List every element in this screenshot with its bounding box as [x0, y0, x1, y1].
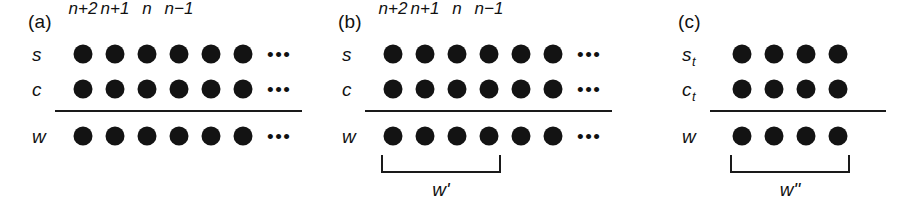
node-dot	[234, 80, 253, 99]
node-dot	[384, 80, 403, 99]
node-dot	[544, 80, 563, 99]
node-dot	[733, 127, 752, 146]
node-dot	[384, 45, 403, 64]
column-header-b-0: n+2	[379, 0, 408, 17]
node-dot	[733, 80, 752, 99]
node-dot	[384, 127, 403, 146]
node-dot	[829, 45, 848, 64]
row-label-b-w: w	[342, 127, 356, 146]
panel-letter-b: (b)	[338, 12, 362, 31]
row-ellipsis: •••	[577, 127, 601, 146]
row-label-a-c: c	[32, 80, 42, 99]
row-label-subscript: t	[692, 89, 696, 104]
node-dot	[74, 127, 93, 146]
node-dot	[416, 80, 435, 99]
node-dot	[512, 127, 531, 146]
column-header-a-3: n−1	[165, 0, 194, 17]
row-label-c-st: st	[682, 45, 695, 64]
row-label-b-s: s	[342, 45, 352, 64]
node-dot	[797, 127, 816, 146]
node-dot	[765, 45, 784, 64]
node-dot	[138, 80, 157, 99]
row-ellipsis: •••	[267, 45, 291, 64]
column-header-b-3: n−1	[475, 0, 504, 17]
node-dot	[480, 80, 499, 99]
column-header-b-2: n	[452, 0, 461, 17]
node-dot	[170, 45, 189, 64]
group-bracket-c	[730, 155, 850, 173]
row-label-c-ct: ct	[682, 80, 695, 99]
row-separator-c	[710, 110, 886, 112]
node-dot	[829, 127, 848, 146]
row-ellipsis: •••	[577, 45, 601, 64]
group-bracket-label-b: w'	[432, 180, 449, 199]
panel-letter-c: (c)	[678, 12, 701, 31]
panel-letter-a: (a)	[28, 12, 52, 31]
row-label-a-w: w	[32, 127, 46, 146]
node-dot	[448, 45, 467, 64]
node-dot	[138, 45, 157, 64]
node-dot	[416, 127, 435, 146]
node-dot	[170, 127, 189, 146]
node-dot	[202, 45, 221, 64]
node-dot	[106, 45, 125, 64]
row-separator-b	[365, 110, 612, 112]
row-ellipsis: •••	[267, 127, 291, 146]
group-bracket-label-c: w"	[780, 180, 800, 199]
node-dot	[74, 45, 93, 64]
node-dot	[202, 80, 221, 99]
column-header-a-1: n+1	[101, 0, 130, 17]
row-separator-a	[55, 110, 302, 112]
node-dot	[480, 45, 499, 64]
node-dot	[797, 80, 816, 99]
panel-c: (c)stctww"	[620, 0, 915, 207]
column-header-a-2: n	[142, 0, 151, 17]
row-ellipsis: •••	[267, 80, 291, 99]
row-label-subscript: t	[692, 54, 696, 69]
node-dot	[448, 127, 467, 146]
node-dot	[733, 45, 752, 64]
node-dot	[170, 80, 189, 99]
node-dot	[448, 80, 467, 99]
node-dot	[829, 80, 848, 99]
node-dot	[544, 45, 563, 64]
column-header-b-1: n+1	[411, 0, 440, 17]
node-dot	[512, 80, 531, 99]
node-dot	[74, 80, 93, 99]
node-dot	[544, 127, 563, 146]
node-dot	[797, 45, 816, 64]
row-label-c-w: w	[682, 127, 696, 146]
column-header-a-0: n+2	[69, 0, 98, 17]
node-dot	[138, 127, 157, 146]
node-dot	[416, 45, 435, 64]
row-ellipsis: •••	[577, 80, 601, 99]
node-dot	[512, 45, 531, 64]
node-dot	[480, 127, 499, 146]
node-dot	[765, 127, 784, 146]
node-dot	[765, 80, 784, 99]
node-dot	[106, 127, 125, 146]
node-dot	[234, 127, 253, 146]
panel-b: (b)n+2n+1nn−1s•••c•••w•••w'	[310, 0, 620, 207]
row-label-b-c: c	[342, 80, 352, 99]
node-dot	[106, 80, 125, 99]
node-dot	[202, 127, 221, 146]
node-dot	[234, 45, 253, 64]
panel-a: (a)n+2n+1nn−1s•••c•••w•••	[0, 0, 310, 207]
row-label-a-s: s	[32, 45, 42, 64]
group-bracket-b	[381, 155, 501, 173]
